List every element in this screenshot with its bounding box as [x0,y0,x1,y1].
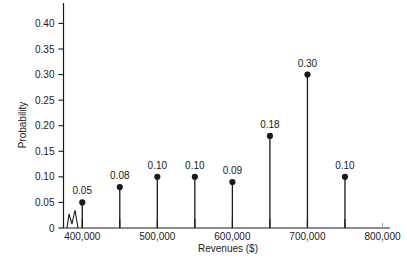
data-point-label: 0.09 [223,165,243,176]
y-axis-title: Probability [17,102,28,149]
x-tick-label: 700,000 [289,231,326,242]
figure-caption-strip [0,260,407,269]
data-point-marker [79,199,85,205]
data-point-marker [192,174,198,180]
data-point-label: 0.18 [260,119,280,130]
probability-distribution-chart: 00.050.100.150.200.250.300.350.40 400,00… [0,0,407,269]
x-tick-label: 500,000 [139,231,176,242]
data-point-label: 0.10 [148,160,168,171]
y-tick-label: 0.10 [35,171,55,182]
x-axis-title: Revenues ($) [198,243,258,254]
y-tick-label: 0.15 [35,146,55,157]
data-point-label: 0.05 [73,185,93,196]
data-point-marker [229,179,235,185]
x-axis-tick-labels: 400,000500,000600,000700,000800,000 [64,231,401,242]
y-tick-label: 0.30 [35,69,55,80]
y-tick-label: 0.25 [35,95,55,106]
data-stems [82,75,345,228]
y-tick-label: 0.35 [35,44,55,55]
y-tick-label: 0.40 [35,18,55,29]
y-axis-tick-labels: 00.050.100.150.200.250.300.350.40 [35,18,55,234]
data-point-marker [342,174,348,180]
x-tick-label: 400,000 [64,231,101,242]
y-tick-label: 0.05 [35,197,55,208]
data-point-marker [117,184,123,190]
data-point-marker [154,174,160,180]
data-point-marker [304,71,310,77]
data-point-marker [267,133,273,139]
x-tick-label: 600,000 [214,231,251,242]
y-tick-label: 0.20 [35,120,55,131]
y-tick-label: 0 [49,223,55,234]
axis-break-icon [67,210,78,228]
y-axis-ticks [59,23,64,228]
data-point-label: 0.08 [110,170,130,181]
figure-container: 00.050.100.150.200.250.300.350.40 400,00… [0,0,407,269]
data-point-labels: 0.050.080.100.100.090.180.300.10 [73,58,356,197]
data-point-label: 0.30 [298,58,318,69]
data-point-label: 0.10 [185,160,205,171]
x-tick-label: 800,000 [364,231,401,242]
data-point-label: 0.10 [335,160,355,171]
